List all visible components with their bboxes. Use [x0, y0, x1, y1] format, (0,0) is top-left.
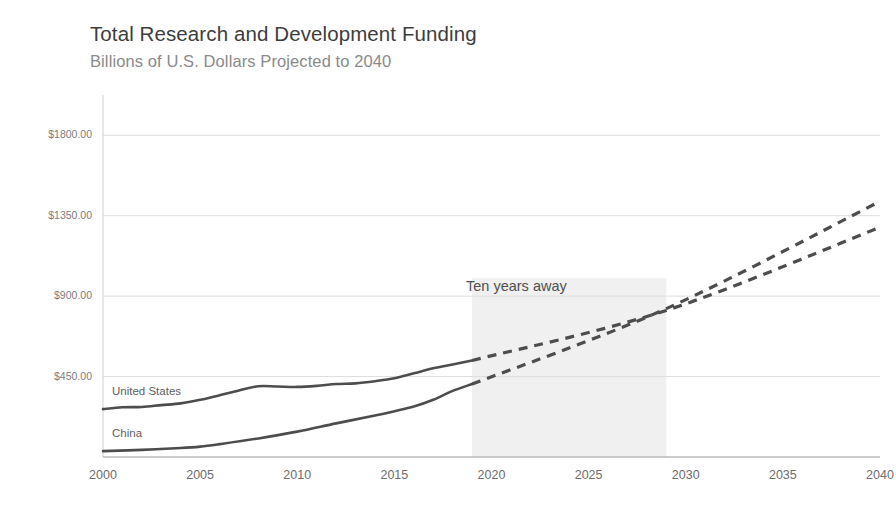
x-axis-tick-label: 2025 — [559, 468, 619, 482]
x-axis-tick-label: 2035 — [753, 468, 813, 482]
series-label-united-states: United States — [112, 385, 181, 397]
x-axis-tick-label: 2010 — [267, 468, 327, 482]
rd-funding-chart: Total Research and Development Funding B… — [0, 0, 896, 523]
x-axis-tick-label: 2030 — [656, 468, 716, 482]
y-axis-tick-label: $1350.00 — [48, 210, 92, 221]
x-axis-tick-label: 2015 — [364, 468, 424, 482]
y-axis-tick-label: $450.00 — [54, 371, 92, 382]
x-axis-tick-label: 2020 — [462, 468, 522, 482]
y-axis-tick-label: $1800.00 — [48, 129, 92, 140]
x-axis-tick-label: 2000 — [73, 468, 133, 482]
x-axis-tick-label: 2040 — [850, 468, 896, 482]
y-axis-tick-label: $900.00 — [54, 290, 92, 301]
band-annotation-label: Ten years away — [466, 278, 567, 294]
ten-years-away-band — [472, 278, 666, 457]
x-axis-tick-label: 2005 — [170, 468, 230, 482]
plot-area — [0, 0, 896, 523]
series-label-china: China — [112, 427, 142, 439]
